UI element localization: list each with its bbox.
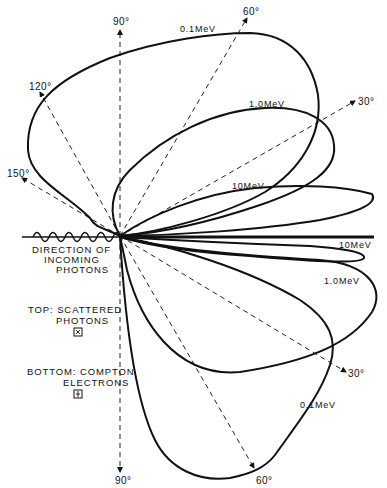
legend-bottom-symbol-icon [74,390,82,398]
axis-150-top [22,178,120,236]
lobe-top-1.0mev [113,108,335,236]
legend-top-symbol-icon [74,328,82,336]
lobe-bottom-10mev [120,237,364,262]
angle-label-30-bottom: 30° [348,368,365,379]
axis-60-bottom [120,236,254,468]
axis-60-top [120,18,247,236]
compton-electron-lobes [120,237,376,479]
angle-label-60-bottom: 60° [256,475,273,486]
axis-120-top [40,92,120,236]
compton-scattering-diagram: 90° 60° 30° 120° 150° 90° 60° 30° 0.1MeV… [0,0,387,488]
legend-bottom-line1: BOTTOM: COMPTON [27,366,135,377]
legend-top-line2: PHOTONS [56,315,109,326]
energy-label-top-1.0: 1.0MeV [249,99,285,109]
angle-label-90-top: 90° [113,16,130,27]
lobe-bottom-1.0mev [120,237,376,372]
polar-diagram-svg: 90° 60° 30° 120° 150° 90° 60° 30° 0.1MeV… [0,0,387,488]
angle-label-30-top: 30° [358,96,375,107]
angle-label-90-bottom: 90° [115,475,132,486]
energy-label-bottom-10: 10MeV [339,240,372,250]
scattered-photon-lobes [28,33,373,236]
angle-label-120: 120° [29,81,52,92]
incoming-text-line3: PHOTONS [56,264,109,275]
energy-label-bottom-1.0: 1.0MeV [324,276,360,286]
axis-30-bottom [120,236,346,372]
lobe-top-0.1mev [28,33,319,236]
energy-label-top-10: 10MeV [232,181,265,191]
lobe-top-10mev [120,186,373,236]
legend-top-line1: TOP: SCATTERED [28,304,122,315]
energy-label-bottom-0.1: 0.1MeV [300,400,336,410]
angle-label-60-top: 60° [243,6,260,17]
angle-label-150: 150° [7,168,30,179]
energy-label-top-0.1: 0.1MeV [180,24,216,34]
incoming-photon-wave [22,233,121,242]
legend-bottom-line2: ELECTRONS [63,377,129,388]
